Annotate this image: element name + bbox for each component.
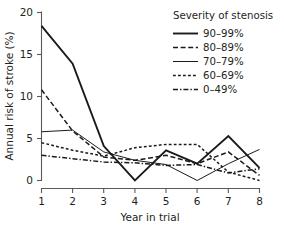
legend-title: Severity of stenosis	[173, 10, 273, 21]
y-axis: 20 15 10 5 0 Annual risk of stroke (%)	[3, 6, 42, 186]
chart-figure: 20 15 10 5 0 Annual risk of stroke (%) 1…	[0, 0, 284, 225]
x-tick-label-8: 8	[256, 195, 263, 207]
legend-label-0-49: 0–49%	[203, 84, 238, 95]
x-tick-label-7: 7	[225, 195, 232, 207]
legend-item-0-49[interactable]: 0–49%	[173, 84, 238, 95]
y-tick-label-15: 15	[20, 48, 33, 60]
legend: Severity of stenosis 90–99% 80–89% 70–79…	[173, 10, 273, 95]
y-axis-title: Annual risk of stroke (%)	[3, 31, 15, 160]
x-tick-label-6: 6	[194, 195, 201, 207]
y-axis-ticks	[37, 13, 42, 181]
legend-item-70-79[interactable]: 70–79%	[173, 56, 244, 67]
x-tick-label-4: 4	[132, 195, 139, 207]
y-tick-label-0: 0	[26, 174, 33, 186]
y-tick-label-20: 20	[20, 6, 33, 18]
legend-item-60-69[interactable]: 60–69%	[173, 70, 244, 81]
line-chart: 20 15 10 5 0 Annual risk of stroke (%) 1…	[0, 0, 284, 225]
legend-label-70-79: 70–79%	[203, 56, 244, 67]
x-axis-title: Year in trial	[119, 211, 179, 223]
legend-label-60-69: 60–69%	[203, 70, 244, 81]
legend-item-80-89[interactable]: 80–89%	[173, 42, 244, 53]
legend-item-90-99[interactable]: 90–99%	[173, 28, 244, 39]
x-axis-ticks	[42, 189, 260, 194]
x-tick-label-3: 3	[100, 195, 107, 207]
x-tick-label-1: 1	[38, 195, 45, 207]
legend-label-90-99: 90–99%	[203, 28, 244, 39]
y-tick-label-5: 5	[26, 132, 33, 144]
x-tick-label-5: 5	[163, 195, 170, 207]
legend-label-80-89: 80–89%	[203, 42, 244, 53]
series-line-60-69	[42, 143, 260, 181]
y-tick-label-10: 10	[20, 90, 33, 102]
x-tick-label-2: 2	[69, 195, 76, 207]
x-axis: 1 2 3 4 5 6 7 8 Year in trial	[38, 189, 263, 224]
